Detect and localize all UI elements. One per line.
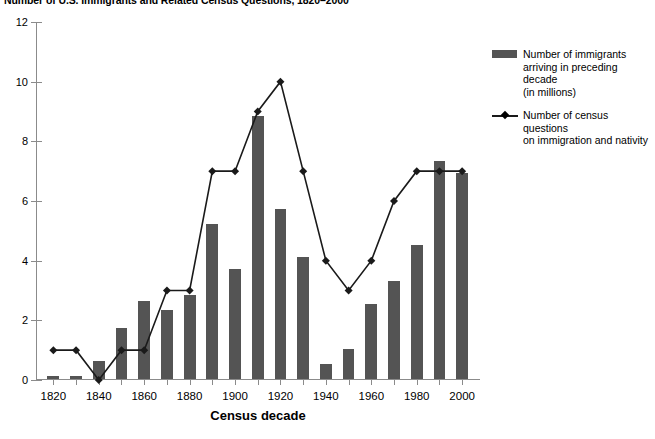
legend-entry-census-questions: Number of census questions on immigratio…	[492, 109, 652, 147]
y-tick-label: 8	[22, 136, 28, 147]
legend-label-immigrants: Number of immigrants arriving in precedi…	[523, 48, 652, 98]
chart-container: Number of U.S. Immigrants and Related Ce…	[0, 0, 655, 439]
line-marker-1990	[435, 167, 443, 175]
legend-bar-swatch-icon	[492, 48, 518, 61]
y-tick-label: 6	[22, 196, 28, 207]
line-marker-1930	[299, 167, 307, 175]
y-tick-label: 0	[22, 375, 28, 386]
y-tick-label: 12	[16, 17, 28, 28]
x-tick-label-1980: 1980	[404, 390, 430, 403]
line-marker-1860	[140, 346, 148, 354]
line-marker-1890	[208, 167, 216, 175]
legend-label-line-3: (in millions)	[523, 86, 576, 98]
x-tick-label-1900: 1900	[222, 390, 248, 403]
line-series	[36, 22, 480, 380]
census-questions-line	[53, 82, 462, 380]
legend-label-line-2: arriving in preceding decade	[523, 61, 618, 86]
chart-title: Number of U.S. Immigrants and Related Ce…	[4, 0, 349, 6]
legend-label-census-questions: Number of census questions on immigratio…	[523, 109, 652, 147]
y-tick-mark	[31, 380, 42, 381]
x-axis-title: Census decade	[36, 408, 480, 423]
legend-entry-immigrants: Number of immigrants arriving in precedi…	[492, 48, 652, 98]
x-tick-label-1840: 1840	[86, 390, 112, 403]
y-tick-label: 4	[22, 255, 28, 266]
line-marker-1880	[186, 287, 194, 295]
legend-label-line-1: Number of immigrants	[523, 48, 626, 60]
x-tick-label-1960: 1960	[359, 390, 385, 403]
line-marker-1820	[49, 346, 57, 354]
x-tick-label-1940: 1940	[313, 390, 339, 403]
legend-label-line-2: on immigration and nativity	[523, 134, 648, 146]
y-tick-label: 2	[22, 315, 28, 326]
plot-area: 024681012 182018401860188019001920194019…	[36, 22, 480, 380]
x-tick-label-1920: 1920	[268, 390, 294, 403]
line-marker-2000	[458, 167, 466, 175]
x-tick-label-2000: 2000	[449, 390, 475, 403]
line-marker-1870	[163, 287, 171, 295]
legend-label-line-1: Number of census questions	[523, 109, 608, 134]
line-marker-1900	[231, 167, 239, 175]
x-tick-label-1860: 1860	[131, 390, 157, 403]
y-tick-label: 10	[16, 76, 28, 87]
x-tick-label-1820: 1820	[41, 390, 67, 403]
chart-legend: Number of immigrants arriving in precedi…	[492, 48, 652, 158]
x-tick-label-1880: 1880	[177, 390, 203, 403]
legend-line-diamond-icon	[492, 109, 518, 122]
